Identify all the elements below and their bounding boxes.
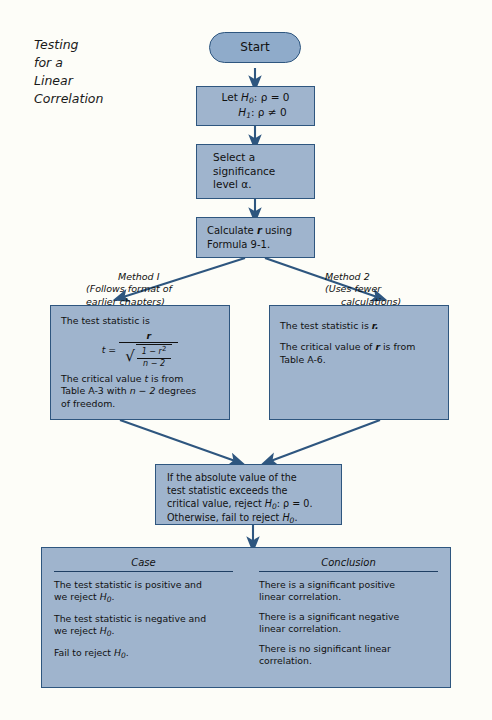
sqrt-icon: √ <box>125 344 136 368</box>
page-title-line-3: Linear <box>34 72 103 90</box>
method1-head: Method I <box>86 271 216 283</box>
row3-conclusion-line1: There is no significant linear <box>259 643 438 655</box>
method2-head: Method 2 <box>325 271 465 283</box>
table-row: The test statistic is positive and we re… <box>54 579 233 605</box>
formula-inner-fraction: 1 − r2 n − 2 <box>136 346 173 368</box>
method1-critical-line-3: of freedom. <box>61 398 219 410</box>
method2-r-symbol: r. <box>372 320 379 331</box>
formula-denominator: √ 1 − r2 n − 2 <box>119 342 178 368</box>
results-table[interactable]: Case The test statistic is positive and … <box>41 547 451 688</box>
page-title-line-2: for a <box>34 54 103 72</box>
formula-fraction: r √ 1 − r2 n − 2 <box>119 331 178 368</box>
table-row: There is a significant positive linear c… <box>259 579 438 603</box>
node-method-2[interactable]: The test statistic is r. The critical va… <box>269 305 449 420</box>
method2-statistic-line: The test statistic is r. <box>280 320 438 332</box>
decision-line-3: critical value, reject H0: ρ = 0. <box>167 498 330 512</box>
row2-conclusion-line1: There is a significant negative <box>259 611 438 623</box>
calculate-verb: Calculate <box>207 225 254 236</box>
arrow-method2-to-decision <box>268 420 380 462</box>
formula-t-symbol: t <box>102 344 106 356</box>
method1-line-2: (Follows format of <box>86 283 216 295</box>
method2-critical-r-symbol: r <box>375 341 380 352</box>
hypotheses-h0-symbol: H <box>241 91 249 103</box>
case-column-rule <box>54 571 233 572</box>
arrow-method1-to-decision <box>120 420 238 462</box>
node-significance-level[interactable]: Select a significance level α. <box>196 144 315 199</box>
results-header-case: Case <box>54 557 233 571</box>
row1-case-line1: The test statistic is positive and <box>54 579 233 591</box>
hypotheses-line-1: Let H0: ρ = 0 <box>222 91 290 106</box>
method2-critical-line-2: Table A-6. <box>280 354 438 366</box>
inner-denominator: n − 2 <box>137 358 171 368</box>
method1-critical-line-1: The critical value t is from <box>61 373 219 385</box>
node-calculate-r[interactable]: Calculate r using Formula 9-1. <box>196 217 315 258</box>
hypotheses-line-2: H1: ρ ≠ 0 <box>224 106 286 121</box>
method1-statistic-line: The test statistic is <box>61 315 219 327</box>
row1-conclusion-line1: There is a significant positive <box>259 579 438 591</box>
node-hypotheses[interactable]: Let H0: ρ = 0 H1: ρ ≠ 0 <box>196 86 315 126</box>
row3-conclusion-line2: correlation. <box>259 655 438 667</box>
inner-numerator: 1 − r2 <box>136 346 173 357</box>
method1-critical-line-2: Table A-3 with n − 2 degrees <box>61 385 219 397</box>
page-title-line-1: Testing <box>34 36 103 54</box>
node-method-1[interactable]: The test statistic is t = r √ 1 − r2 n −… <box>50 305 230 420</box>
node-decision[interactable]: If the absolute value of the test statis… <box>155 464 342 525</box>
branch-label-method-1: Method I (Follows format of earlier chap… <box>86 271 216 308</box>
branch-label-method-2: Method 2 (Uses fewer calculations) <box>325 271 465 308</box>
table-row: The test statistic is negative and we re… <box>54 613 233 639</box>
degrees-of-freedom-expr: n − 2 <box>130 385 156 396</box>
method1-formula: t = r √ 1 − r2 n − 2 <box>61 331 219 368</box>
significance-line-1: Select a <box>213 151 304 165</box>
row2-conclusion-line2: linear correlation. <box>259 623 438 635</box>
significance-line-3: level α. <box>213 178 304 192</box>
results-case-column: Case The test statistic is positive and … <box>42 548 247 687</box>
table-row: There is a significant negative linear c… <box>259 611 438 635</box>
node-start-label: Start <box>240 40 269 56</box>
calculate-line-1: Calculate r using <box>207 224 304 237</box>
table-row: Fail to reject H0. <box>54 647 233 661</box>
row1-conclusion-line2: linear correlation. <box>259 591 438 603</box>
calculate-r-symbol: r <box>257 225 262 236</box>
hypotheses-let-word: Let <box>222 91 238 103</box>
decision-line-2: test statistic exceeds the <box>167 485 330 498</box>
table-row: There is no significant linear correlati… <box>259 643 438 667</box>
hypotheses-h1-rest: : ρ ≠ 0 <box>251 106 287 118</box>
row1-case-line2: we reject H0. <box>54 591 233 605</box>
method2-line-2: (Uses fewer <box>325 283 465 295</box>
sqrt-body: 1 − r2 n − 2 <box>136 344 173 368</box>
node-start[interactable]: Start <box>209 32 301 63</box>
calculate-using-word: using <box>265 225 292 236</box>
conclusion-column-rule <box>259 571 438 572</box>
calculate-line-2: Formula 9-1. <box>207 238 304 251</box>
critical-t-symbol: t <box>144 373 148 384</box>
formula-sqrt: √ 1 − r2 n − 2 <box>125 344 172 368</box>
row2-case-line2: we reject H0. <box>54 625 233 639</box>
formula-numerator-r: r <box>140 331 157 342</box>
results-header-conclusion: Conclusion <box>259 557 438 571</box>
decision-h0-symbol-2: H <box>282 512 289 523</box>
hypotheses-h0-rest: : ρ = 0 <box>254 91 290 103</box>
significance-line-2: significance <box>213 165 304 179</box>
formula-equals: = <box>108 344 116 356</box>
flowchart-page: Testing for a Linear Correlation Start L… <box>0 0 492 720</box>
results-conclusion-column: Conclusion There is a significant positi… <box>247 548 450 687</box>
decision-line-4: Otherwise, fail to reject H0. <box>167 512 330 526</box>
page-title: Testing for a Linear Correlation <box>34 36 103 109</box>
row3-case-line1: Fail to reject H0. <box>54 647 233 661</box>
page-title-line-4: Correlation <box>34 90 103 108</box>
decision-line-1: If the absolute value of the <box>167 472 330 485</box>
decision-h0-symbol: H <box>265 498 272 509</box>
row2-case-line1: The test statistic is negative and <box>54 613 233 625</box>
method2-critical-line-1: The critical value of r is from <box>280 341 438 353</box>
